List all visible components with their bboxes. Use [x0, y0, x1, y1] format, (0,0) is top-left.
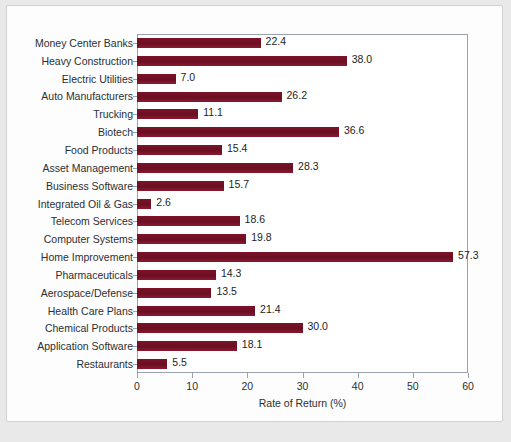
bar-row: 2.6 [137, 195, 468, 214]
bar [137, 145, 222, 155]
category-label: Business Software [7, 178, 133, 194]
x-axis-tick-label: 60 [462, 379, 474, 393]
category-label: Auto Manufacturers [7, 88, 133, 104]
category-label: Chemical Products [7, 320, 133, 336]
x-axis-tick [413, 373, 414, 378]
x-axis-tick [468, 373, 469, 378]
category-axis-labels: Money Center BanksHeavy ConstructionElec… [7, 34, 133, 373]
x-axis-title: Rate of Return (%) [137, 397, 468, 409]
category-label: Electric Utilities [7, 71, 133, 87]
category-label: Aerospace/Defense [7, 285, 133, 301]
bar-row: 30.0 [137, 319, 468, 338]
bar-row: 28.3 [137, 159, 468, 178]
bars-layer: 22.438.07.026.211.136.615.428.315.72.618… [137, 34, 468, 373]
bar-value-label: 30.0 [308, 318, 328, 334]
bar [137, 306, 255, 316]
bar-value-label: 18.6 [245, 211, 265, 227]
bar-value-label: 57.3 [458, 247, 478, 263]
category-label: Asset Management [7, 160, 133, 176]
category-label: Computer Systems [7, 231, 133, 247]
bar-value-label: 26.2 [287, 87, 307, 103]
bar-row: 36.6 [137, 123, 468, 142]
x-axis-tick [303, 373, 304, 378]
x-axis-tick-label: 40 [352, 379, 364, 393]
bar [137, 181, 224, 191]
bar [137, 216, 240, 226]
category-label: Heavy Construction [7, 53, 133, 69]
bar-value-label: 15.4 [227, 140, 247, 156]
x-axis-tick [247, 373, 248, 378]
bar [137, 270, 216, 280]
category-label: Health Care Plans [7, 303, 133, 319]
category-label: Application Software [7, 338, 133, 354]
category-label: Money Center Banks [7, 35, 133, 51]
bar-row: 15.7 [137, 177, 468, 196]
bar-row: 14.3 [137, 266, 468, 285]
bar [137, 38, 261, 48]
bar-row: 57.3 [137, 248, 468, 267]
figure-frame: Money Center BanksHeavy ConstructionElec… [6, 5, 503, 422]
x-axis-ticks: 0102030405060 [137, 373, 468, 379]
bar-row: 18.6 [137, 212, 468, 231]
category-label: Integrated Oil & Gas [7, 196, 133, 212]
category-label: Pharmaceuticals [7, 267, 133, 283]
x-axis-tick-label: 30 [297, 379, 309, 393]
category-label: Restaurants [7, 356, 133, 372]
bar-value-label: 19.8 [251, 229, 271, 245]
bar [137, 288, 211, 298]
bar-row: 13.5 [137, 284, 468, 303]
bar-row: 22.4 [137, 34, 468, 53]
bar [137, 341, 237, 351]
bar-row: 11.1 [137, 105, 468, 124]
bar-row: 5.5 [137, 355, 468, 374]
x-axis-tick [192, 373, 193, 378]
category-label: Home Improvement [7, 249, 133, 265]
bar-value-label: 38.0 [352, 51, 372, 67]
x-axis-tick-label: 10 [186, 379, 198, 393]
bar-value-label: 18.1 [242, 336, 262, 352]
bar [137, 127, 339, 137]
category-label: Telecom Services [7, 213, 133, 229]
x-axis-tick [137, 373, 138, 378]
bar-value-label: 11.1 [203, 104, 223, 120]
bar-value-label: 22.4 [266, 33, 286, 49]
x-axis-tick-label: 20 [241, 379, 253, 393]
bar-value-label: 7.0 [181, 69, 196, 85]
bar [137, 234, 246, 244]
category-label: Food Products [7, 142, 133, 158]
bar-value-label: 13.5 [216, 283, 236, 299]
category-label: Trucking [7, 106, 133, 122]
bar-value-label: 15.7 [229, 176, 249, 192]
bar [137, 252, 453, 262]
bar [137, 109, 198, 119]
bar [137, 74, 176, 84]
x-axis-tick-label: 0 [134, 379, 140, 393]
bar [137, 92, 282, 102]
category-label: Biotech [7, 124, 133, 140]
bar-row: 21.4 [137, 302, 468, 321]
bar-value-label: 5.5 [172, 354, 187, 370]
bar-value-label: 28.3 [298, 158, 318, 174]
bar-value-label: 36.6 [344, 122, 364, 138]
bar-row: 19.8 [137, 230, 468, 249]
bar-value-label: 2.6 [156, 194, 171, 210]
bar [137, 323, 303, 333]
bar-chart: Money Center BanksHeavy ConstructionElec… [7, 6, 502, 421]
bar-row: 26.2 [137, 88, 468, 107]
x-axis-tick [358, 373, 359, 378]
bar-value-label: 21.4 [260, 301, 280, 317]
bar-value-label: 14.3 [221, 265, 241, 281]
x-axis-tick-label: 50 [407, 379, 419, 393]
bar [137, 56, 347, 66]
bar [137, 359, 167, 369]
bar [137, 163, 293, 173]
bar [137, 199, 151, 209]
